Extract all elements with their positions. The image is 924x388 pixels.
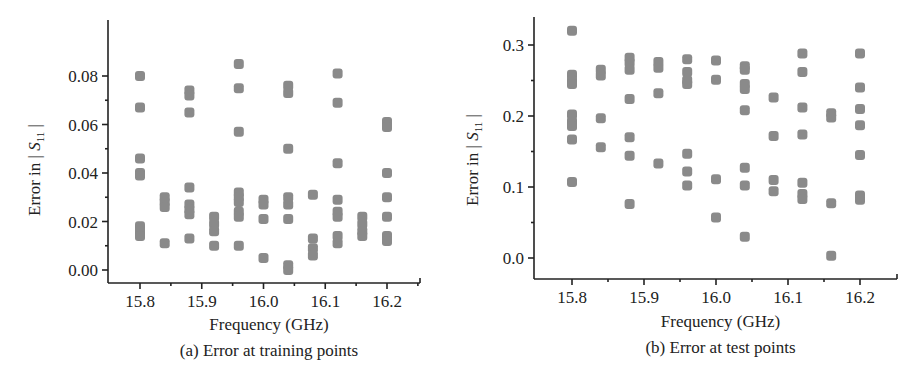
data-point [234, 197, 244, 207]
data-point [234, 59, 244, 69]
x-tick-label: 16.0 [701, 288, 731, 307]
chart-b-caption: (b) Error at test points [645, 338, 795, 357]
data-point [184, 209, 194, 219]
data-point [382, 212, 392, 222]
data-point [625, 199, 635, 209]
data-point [769, 131, 779, 141]
chart-b-y-axis-title: Error in | S11 | [463, 114, 484, 206]
data-point [625, 132, 635, 142]
x-tick-label: 15.8 [557, 288, 587, 307]
chart-a-axes: 0.000.020.040.060.0815.815.916.016.116.2 [68, 20, 420, 311]
y-tick-label: 0.06 [68, 116, 98, 135]
data-point [855, 195, 865, 205]
data-point [711, 56, 721, 66]
data-point [855, 49, 865, 59]
data-point [184, 233, 194, 243]
data-point [283, 265, 293, 275]
data-point [209, 226, 219, 236]
data-point [711, 75, 721, 85]
data-point [234, 83, 244, 93]
chart-b-points [567, 26, 865, 261]
data-point [283, 88, 293, 98]
data-point [209, 241, 219, 251]
data-point [308, 250, 318, 260]
data-point [333, 238, 343, 248]
data-point [283, 144, 293, 154]
x-tick-label: 16.2 [372, 292, 402, 311]
data-point [711, 213, 721, 223]
data-point [653, 63, 663, 73]
data-point [682, 166, 692, 176]
data-point [740, 105, 750, 115]
data-point [855, 104, 865, 114]
x-tick-label: 16.1 [310, 292, 340, 311]
x-tick-label: 15.9 [629, 288, 659, 307]
y-tick-label: 0.2 [503, 107, 524, 126]
data-point [135, 153, 145, 163]
x-tick-label: 16.1 [773, 288, 803, 307]
chart-a-ylabel-prefix: Error in [25, 158, 44, 216]
data-point [308, 233, 318, 243]
figure: 0.000.020.040.060.0815.815.916.016.116.2… [0, 0, 924, 388]
chart-b-ylabel-bar-left: | [463, 141, 482, 149]
chart-b-test-error: 0.00.10.20.315.815.916.016.116.2 Frequen… [463, 17, 897, 357]
data-point [259, 200, 269, 210]
chart-b-x-axis-title: Frequency (GHz) [661, 312, 780, 331]
data-point [567, 134, 577, 144]
data-point [382, 236, 392, 246]
data-point [135, 103, 145, 113]
data-point [184, 90, 194, 100]
data-point [283, 200, 293, 210]
data-point [234, 241, 244, 251]
chart-b-ylabel-subscript: 11 [472, 122, 484, 133]
data-point [855, 83, 865, 93]
data-point [234, 127, 244, 137]
data-point [855, 120, 865, 130]
data-point [596, 142, 606, 152]
chart-b-ylabel-prefix: Error in [463, 148, 482, 206]
data-point [711, 174, 721, 184]
data-point [333, 158, 343, 168]
data-point [160, 202, 170, 212]
x-tick-label: 15.8 [125, 292, 155, 311]
data-point [797, 67, 807, 77]
data-point [625, 151, 635, 161]
data-point [382, 192, 392, 202]
data-point [740, 65, 750, 75]
data-point [769, 186, 779, 196]
data-point [596, 113, 606, 123]
data-point [769, 175, 779, 185]
data-point [740, 84, 750, 94]
data-point [357, 231, 367, 241]
data-point [308, 190, 318, 200]
chart-a-training-error: 0.000.020.040.060.0815.815.916.016.116.2… [25, 20, 420, 360]
data-point [826, 198, 836, 208]
data-point [135, 71, 145, 81]
data-point [382, 122, 392, 132]
data-point [234, 212, 244, 222]
data-point [596, 71, 606, 81]
x-tick-label: 15.9 [187, 292, 217, 311]
data-point [740, 163, 750, 173]
data-point [135, 170, 145, 180]
data-point [797, 129, 807, 139]
y-tick-label: 0.3 [503, 36, 524, 55]
data-point [333, 69, 343, 79]
data-point [283, 214, 293, 224]
data-point [682, 54, 692, 64]
data-point [333, 98, 343, 108]
data-point [740, 232, 750, 242]
data-point [826, 112, 836, 122]
data-point [333, 212, 343, 222]
data-point [769, 93, 779, 103]
chart-a-points [135, 59, 392, 275]
data-point [826, 251, 836, 261]
y-tick-label: 0.02 [68, 213, 98, 232]
y-tick-label: 0.08 [68, 67, 98, 86]
data-point [259, 253, 269, 263]
data-point [567, 79, 577, 89]
data-point [797, 178, 807, 188]
chart-a-y-axis-title: Error in | S11 | [25, 124, 46, 216]
data-point [653, 159, 663, 169]
data-point [184, 183, 194, 193]
